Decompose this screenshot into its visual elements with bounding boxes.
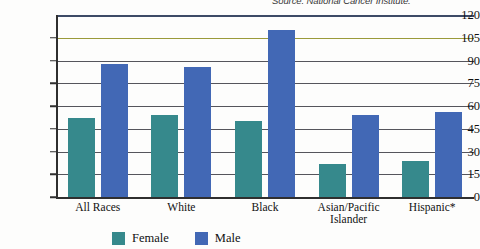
y-axis-tick-mark: [50, 151, 57, 153]
bar: [402, 161, 429, 197]
plot-top-border: [56, 15, 474, 17]
bar: [184, 67, 211, 197]
legend-item: Female: [112, 231, 169, 246]
x-axis-category-label: Asian/PacificIslander: [307, 201, 391, 225]
y-axis-tick-label: 90: [432, 53, 480, 68]
legend-swatch-icon: [195, 232, 208, 245]
bar: [68, 118, 95, 197]
x-axis-category-label: Hispanic*: [390, 201, 474, 213]
legend-item: Male: [195, 231, 241, 246]
x-axis-category-label: All Races: [56, 201, 140, 213]
bar: [268, 30, 295, 197]
chart-screenshot: Source: National Cancer Institute. 01530…: [0, 0, 480, 249]
legend-swatch-icon: [112, 232, 125, 245]
y-axis-tick-label: 45: [432, 121, 480, 136]
gridline: [56, 38, 474, 39]
plot-area: [56, 15, 474, 197]
x-axis-category-label: White: [140, 201, 224, 213]
bar: [352, 115, 379, 197]
bar: [101, 64, 128, 197]
x-axis-category-label: Black: [223, 201, 307, 213]
legend-label: Male: [215, 231, 241, 246]
bar: [151, 115, 178, 197]
x-axis-line: [56, 197, 474, 199]
y-axis-tick-mark: [50, 37, 57, 39]
y-axis-tick-label: 105: [432, 30, 480, 45]
legend-label: Female: [132, 231, 169, 246]
y-axis-tick-label: 15: [432, 167, 480, 182]
y-axis-tick-mark: [50, 196, 57, 198]
y-axis-tick-mark: [50, 60, 57, 62]
source-attribution: Source: National Cancer Institute.: [272, 0, 472, 6]
gridline: [56, 61, 474, 62]
y-axis-tick-label: 60: [432, 99, 480, 114]
bar: [319, 164, 346, 197]
y-axis-tick-mark: [50, 128, 57, 130]
y-axis-line: [56, 15, 58, 199]
y-axis-tick-label: 75: [432, 76, 480, 91]
y-axis-tick-label: 30: [432, 144, 480, 159]
chart-legend: FemaleMale: [112, 231, 240, 246]
bar: [235, 121, 262, 197]
y-axis-tick-label: 120: [432, 8, 480, 23]
y-axis-tick-mark: [50, 105, 57, 107]
y-axis-tick-mark: [50, 174, 57, 176]
y-axis-tick-mark: [50, 83, 57, 85]
